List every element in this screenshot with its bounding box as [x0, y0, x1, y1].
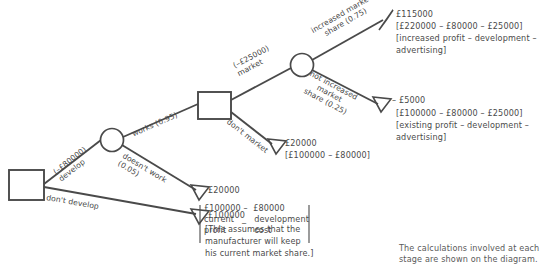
outcome-value-not-increased-share: – £5000 [392, 96, 425, 106]
outcome-calc-dont-market: [£100000 – £80000] [285, 151, 370, 161]
outcome-explanation-increased-share-2: advertising] [396, 46, 446, 56]
outcome-note-dont-develop-3: his current market share.] [205, 248, 314, 259]
outcome-note-dont-develop-2: manufacturer will keep [205, 236, 301, 247]
decision-node-market [198, 92, 231, 119]
outcome-explanation-not-increased-share-2: advertising] [396, 133, 446, 143]
terminal-marker-not-increased-share [373, 97, 391, 112]
outcome-value-doesnt-work: £20000 [208, 186, 240, 196]
outcome-calc-increased-share: [£220000 – £80000 – £25000] [396, 22, 523, 32]
decision-tree-diagram: (–£80000) develop don't develop works (0… [0, 0, 551, 272]
outcome-value-dont-market: £20000 [285, 139, 317, 149]
outcome-explanation-not-increased-share-1: [existing profit – development – [396, 121, 529, 131]
decision-node-develop [9, 170, 44, 200]
caption-line-1: The calculations involved at each [399, 243, 539, 255]
outcome-note-dont-develop-1: [This assumes that the [205, 224, 300, 235]
outcome-calc-not-increased-share: [£100000 – £80000 – £25000] [396, 109, 523, 119]
terminal-marker-dont-market [268, 139, 286, 154]
caption-line-2: stage are shown on the diagram. [399, 254, 538, 266]
outcome-explanation-increased-share-1: [increased profit – development – [396, 34, 537, 44]
chance-node-works [101, 129, 124, 152]
terminal-marker-doesnt-work [191, 185, 209, 200]
outcome-value-increased-share: £115000 [396, 10, 433, 20]
outcome-value-dont-develop: £100000 [208, 211, 245, 221]
